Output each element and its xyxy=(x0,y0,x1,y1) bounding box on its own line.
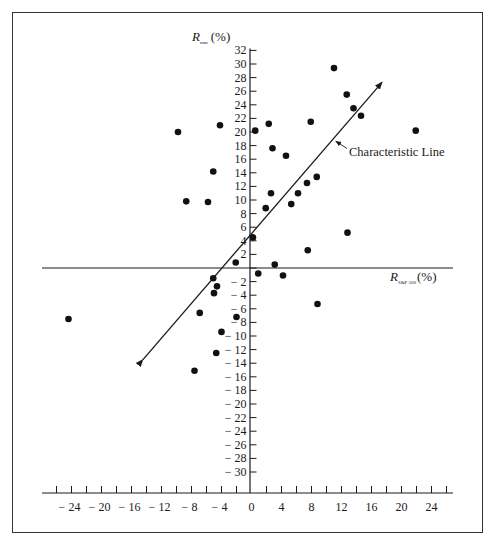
data-point xyxy=(252,127,259,134)
data-point xyxy=(313,174,320,181)
x-tick-label: 16 xyxy=(366,500,378,514)
data-point xyxy=(262,205,269,212)
data-point xyxy=(268,190,275,197)
data-point xyxy=(233,314,240,321)
data-point xyxy=(283,153,290,160)
x-tick-label: 0 xyxy=(249,500,255,514)
data-point xyxy=(191,367,198,374)
y-tick-label: − 24 xyxy=(225,424,247,438)
x-tick-label: 20 xyxy=(396,500,408,514)
y-axis-title-unit: (%) xyxy=(211,29,231,44)
data-point xyxy=(295,190,302,197)
data-point xyxy=(210,275,217,282)
characteristic-line-label: Characteristic Line xyxy=(349,145,445,159)
y-tick-label: 10 xyxy=(235,193,247,207)
x-tick-label: − 24 xyxy=(59,500,81,514)
x-tick-label: − 12 xyxy=(149,500,171,514)
y-tick-label: 8 xyxy=(241,207,247,221)
data-point xyxy=(218,329,225,336)
x-tick-label: − 4 xyxy=(212,500,228,514)
y-tick-label: − 10 xyxy=(225,329,247,343)
characteristic-line xyxy=(143,82,382,359)
scatter-chart: 3230282624222018161412108642− 2− 4− 6− 8… xyxy=(0,0,495,547)
data-point xyxy=(304,247,311,254)
y-tick-label: 20 xyxy=(235,125,247,139)
y-tick-label: 32 xyxy=(235,43,247,57)
y-tick-label: 2 xyxy=(241,247,247,261)
y-tick-label: − 30 xyxy=(225,465,247,479)
x-axis-bottom-scale: − 24− 20− 16− 12− 8− 404812162024 xyxy=(42,486,453,514)
data-point xyxy=(210,168,217,175)
data-point xyxy=(344,229,351,236)
y-tick-label: − 18 xyxy=(225,383,247,397)
data-point xyxy=(265,121,272,128)
y-tick-label: − 6 xyxy=(231,302,247,316)
y-tick-label: 12 xyxy=(235,179,247,193)
data-point xyxy=(232,259,239,266)
y-tick-label: − 16 xyxy=(225,370,247,384)
data-point xyxy=(350,105,357,112)
x-tick-label: 24 xyxy=(426,500,438,514)
data-point xyxy=(358,112,365,119)
x-tick-label: − 20 xyxy=(89,500,111,514)
y-tick-label: − 20 xyxy=(225,397,247,411)
data-point xyxy=(217,122,224,129)
y-axis-title-main: R xyxy=(191,29,200,44)
annotation-pointer xyxy=(336,141,347,148)
y-tick-label: 6 xyxy=(241,220,247,234)
data-point xyxy=(250,234,257,241)
y-tick-label: 22 xyxy=(235,111,247,125)
x-tick-label: − 8 xyxy=(182,500,198,514)
data-point xyxy=(213,350,220,357)
data-point xyxy=(343,91,350,98)
y-tick-label: − 2 xyxy=(231,275,247,289)
data-point xyxy=(269,145,276,152)
data-point xyxy=(255,270,262,277)
data-point xyxy=(280,272,287,279)
data-point xyxy=(412,127,419,134)
data-point xyxy=(314,301,321,308)
data-point xyxy=(205,199,212,206)
x-axis-title-main: R xyxy=(389,269,398,284)
x-axis-title-unit: (%) xyxy=(417,269,437,284)
y-tick-label: 16 xyxy=(235,152,247,166)
characteristic-line-segment xyxy=(143,82,382,359)
data-point xyxy=(288,201,295,208)
y-tick-label: − 28 xyxy=(225,451,247,465)
data-point xyxy=(304,180,311,187)
x-axis-title: RS&P 500(%) xyxy=(389,269,436,285)
y-tick-label: 18 xyxy=(235,139,247,153)
y-tick-label: 26 xyxy=(235,84,247,98)
y-tick-label: 28 xyxy=(235,71,247,85)
y-tick-label: − 26 xyxy=(225,438,247,452)
data-point xyxy=(271,261,278,268)
data-point xyxy=(331,65,338,72)
x-tick-label: 8 xyxy=(309,500,315,514)
y-tick-label: − 22 xyxy=(225,411,247,425)
data-point xyxy=(183,198,190,205)
data-point xyxy=(214,283,221,290)
y-tick-label: 30 xyxy=(235,57,247,71)
data-point xyxy=(175,129,182,136)
y-tick-label: 24 xyxy=(235,98,247,112)
x-tick-label: 4 xyxy=(279,500,285,514)
data-point xyxy=(307,119,314,126)
data-point xyxy=(211,290,218,297)
y-tick-label: − 12 xyxy=(225,343,247,357)
x-axis-title-sub: S&P 500 xyxy=(398,280,417,285)
x-tick-label: 12 xyxy=(336,500,348,514)
y-tick-label: − 4 xyxy=(231,288,247,302)
data-point xyxy=(65,316,72,323)
y-tick-label: − 14 xyxy=(225,356,247,370)
x-tick-label: − 16 xyxy=(119,500,141,514)
y-tick-label: 14 xyxy=(235,166,247,180)
data-point xyxy=(196,310,203,317)
y-axis-title-sub: mm xyxy=(200,40,208,45)
y-axis-title: Rmm(%) xyxy=(191,29,230,45)
